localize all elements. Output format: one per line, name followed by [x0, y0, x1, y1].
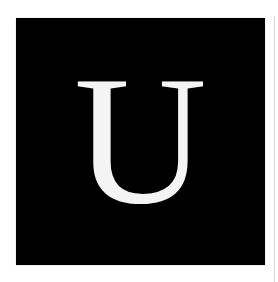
divider [274, 16, 275, 282]
letter-glyph: U [16, 18, 265, 265]
letter-tile: U [16, 18, 265, 265]
